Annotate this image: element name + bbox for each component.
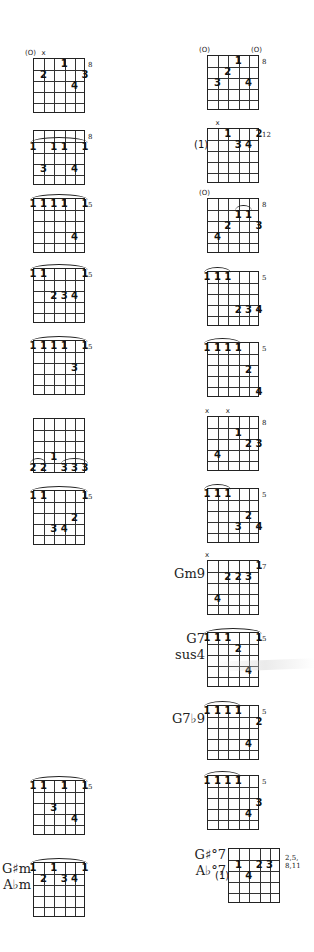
fret-line (208, 677, 258, 678)
finger-number: 1 (233, 56, 243, 66)
fret-position: 5 (262, 274, 266, 282)
finger-number: 1 (80, 863, 90, 873)
finger-number: 4 (212, 594, 222, 604)
string-line (239, 417, 240, 470)
finger-number: 1 (28, 781, 38, 791)
fret-line (34, 280, 84, 281)
string-line (239, 561, 240, 614)
finger-number: 1 (28, 491, 38, 501)
fret-line (208, 316, 258, 317)
finger-number: 3 (254, 221, 264, 231)
chord-diagram: 1112345 (207, 488, 259, 543)
chord-name: G7♭9 (172, 712, 205, 726)
chord-diagram: 12234x7Gm9 (207, 560, 259, 615)
chord-name: A♭m (3, 878, 31, 892)
finger-number: 2 (233, 305, 243, 315)
finger-number: 2 (223, 572, 233, 582)
fret-line (208, 67, 258, 68)
fret-position: 5 (262, 708, 266, 716)
string-line (218, 199, 219, 252)
finger-number: 2 (244, 365, 254, 375)
fretboard-grid (207, 560, 259, 615)
string-line (249, 706, 250, 759)
finger-number: 2 (223, 221, 233, 231)
finger-number: 3 (59, 874, 69, 884)
fret-line (34, 385, 84, 386)
finger-number: 1 (49, 452, 59, 462)
finger-number: 1 (202, 776, 212, 786)
finger-number: 1 (38, 781, 48, 791)
finger-number: 3 (254, 439, 264, 449)
mute-mark-icon: x (41, 49, 45, 57)
chord-name: G7 (186, 632, 205, 646)
finger-number: 1 (233, 776, 243, 786)
fret-line (34, 243, 84, 244)
finger-number: 1 (49, 341, 59, 351)
mute-mark-icon: x (226, 407, 230, 415)
fret-line (208, 354, 258, 355)
finger-number: 2 (38, 70, 48, 80)
finger-number: 1 (233, 210, 243, 220)
finger-number: 3 (59, 463, 69, 473)
fret-position: 8 (262, 201, 266, 209)
fret-line (34, 92, 84, 93)
finger-number: 1 (59, 142, 69, 152)
finger-number: 2 (254, 717, 264, 727)
fret-line (34, 313, 84, 314)
finger-number: 1 (202, 343, 212, 353)
scan-smudge (215, 658, 314, 671)
finger-number: 1 (212, 343, 222, 353)
fret-line (34, 803, 84, 804)
chord-diagram: 1112345 (33, 490, 85, 545)
finger-number: 1 (233, 860, 243, 870)
finger-number: 4 (70, 164, 80, 174)
fret-line (208, 605, 258, 606)
chord-name: G♯m (2, 862, 31, 876)
chord-diagram: 1111345 (33, 780, 85, 835)
string-line (249, 561, 250, 614)
chord-diagram: 1111135 (33, 340, 85, 395)
finger-number: 1 (223, 633, 233, 643)
finger-number: 3 (49, 803, 59, 813)
finger-number: 1 (202, 489, 212, 499)
fretboard-grid (228, 848, 280, 903)
mute-mark-icon: x (205, 551, 209, 559)
finger-number: 2 (38, 874, 48, 884)
string-line (54, 491, 55, 544)
fret-line (34, 302, 84, 303)
fret-line (208, 100, 258, 101)
open-string-mark: (O) (199, 46, 210, 54)
finger-number: 3 (233, 522, 243, 532)
fret-line (34, 452, 84, 453)
finger-number: 4 (70, 291, 80, 301)
chord-diagram: 1234(O)x8 (33, 58, 85, 113)
finger-number: 1 (233, 343, 243, 353)
fretboard-grid (207, 198, 259, 253)
fret-line (34, 175, 84, 176)
finger-number: 2 (254, 860, 264, 870)
finger-number: 3 (80, 463, 90, 473)
mute-mark-icon: x (205, 407, 209, 415)
finger-number: 3 (70, 363, 80, 373)
finger-number: 1 (223, 343, 233, 353)
fret-line (208, 221, 258, 222)
chord-name: sus4 (175, 648, 205, 662)
fret-line (208, 533, 258, 534)
fret-position: 5 (262, 635, 266, 643)
open-string-mark: (O) (199, 189, 210, 197)
finger-number: 1 (212, 706, 222, 716)
string-line (239, 129, 240, 182)
open-string-mark: (O) (251, 46, 262, 54)
fret-position: 8 (88, 61, 92, 69)
finger-number: 4 (244, 809, 254, 819)
string-line (54, 59, 55, 112)
fret-line (208, 655, 258, 656)
chord-diagram: 1111245 (207, 342, 259, 397)
fret-line (34, 885, 84, 886)
finger-number: 4 (254, 522, 264, 532)
finger-number: 4 (70, 232, 80, 242)
fret-line (208, 787, 258, 788)
fret-line (34, 153, 84, 154)
finger-number: 1 (28, 199, 38, 209)
finger-number: 4 (244, 140, 254, 150)
